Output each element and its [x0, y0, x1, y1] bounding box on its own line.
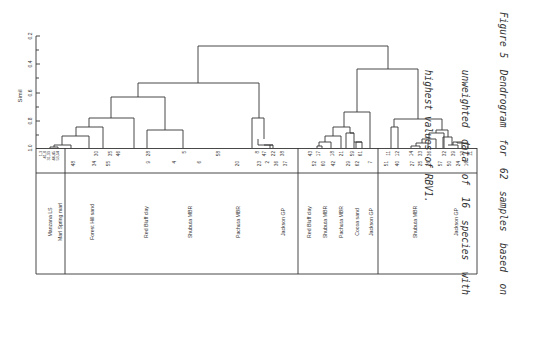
group-label: Cocoa sand — [354, 208, 360, 236]
leaf-label: 55 — [106, 161, 111, 167]
group-label: Jackson GP — [368, 207, 374, 236]
caption-line-2: unweighted data of 16 species with — [459, 12, 472, 342]
group-label: Red Bluff clay — [306, 206, 312, 238]
leaf-label: 28 — [146, 151, 151, 157]
leaf-labels-stacked: 1,341,831,3344,4553,54 — [39, 151, 60, 161]
leaf-label: 34 — [92, 161, 97, 167]
group-label: Forest Hill sand — [89, 204, 95, 240]
y-tick-label: 0.2 — [27, 32, 33, 39]
dendrogram-branches — [50, 46, 468, 148]
y-tick-labels: 0.20.40.60.81.0 — [27, 32, 33, 151]
leaf-label: 35 — [108, 151, 113, 157]
leaf-label: 12 — [395, 151, 400, 157]
leaf-label: 8 — [255, 151, 260, 154]
leaf-label: 30 — [94, 151, 99, 157]
leaf-label: 42 — [331, 161, 336, 167]
leaf-label: 20 — [235, 161, 240, 167]
leaf-label: 58 — [216, 151, 221, 157]
leaf-label: 51 — [384, 161, 389, 167]
leaf-label: 4 — [172, 161, 177, 164]
leaf-label: 40 — [395, 161, 400, 167]
y-tick-label: 0.8 — [27, 117, 33, 124]
group-labels: Manzana LSMarl Spring marlForest Hill sa… — [47, 203, 459, 241]
leaf-label: 11 — [386, 151, 391, 156]
y-tick-label: 0.6 — [27, 89, 33, 96]
leaf-label: 37 — [283, 161, 288, 167]
figure-caption: Figure 5 Dendrogram for 62 samples based… — [478, 12, 534, 342]
caption-line-1: Figure 5 Dendrogram for 62 samples based… — [497, 12, 510, 342]
leaf-label: 7 — [368, 161, 373, 164]
leaf-label: 22 — [271, 151, 276, 157]
leaf-label: 43 — [308, 151, 313, 157]
leaf-label: 48 — [71, 161, 76, 167]
leaf-label: 52 — [312, 161, 317, 167]
group-label: Jackson GP — [280, 207, 286, 236]
group-label: Pachuta MBR — [338, 206, 344, 238]
leaf-label: 47 — [262, 151, 267, 157]
leaf-label: 23 — [257, 161, 262, 167]
leaf-label: 61 — [358, 151, 363, 157]
leaf-label: 53,54 — [56, 151, 60, 161]
leaf-label: 62 — [355, 161, 360, 167]
leaf-label: 6 — [197, 161, 202, 164]
group-label: Marl Spring marl — [57, 203, 63, 241]
leaf-label: 21 — [339, 151, 344, 157]
group-label: Manzana LS — [47, 207, 53, 237]
leaf-label: 59 — [350, 151, 355, 157]
leaf-label: 60 — [321, 161, 326, 167]
group-label: Shubuta MBR — [187, 206, 193, 239]
leaf-label: 9 — [146, 161, 151, 164]
leaf-label: 2 — [265, 161, 270, 164]
group-label: Red Bluff clay — [143, 206, 149, 238]
leaf-label: 38 — [280, 151, 285, 157]
caption-line-3: highest values of RBV1. — [422, 12, 435, 342]
leaf-label: 36 — [274, 161, 279, 167]
group-label: Pachuta MBR — [235, 206, 241, 238]
leaf-label: 29 — [346, 161, 351, 167]
y-axis-label: Simil — [17, 90, 23, 103]
y-tick-label: 1.0 — [27, 144, 33, 151]
y-tick-label: 0.4 — [27, 60, 33, 67]
leaf-label: 17 — [316, 151, 321, 157]
leaf-label: 46 — [116, 151, 121, 157]
leaf-label: 18 — [330, 151, 335, 157]
group-label: Shubuta MBR — [322, 206, 328, 239]
leaf-label: 5 — [182, 151, 187, 154]
